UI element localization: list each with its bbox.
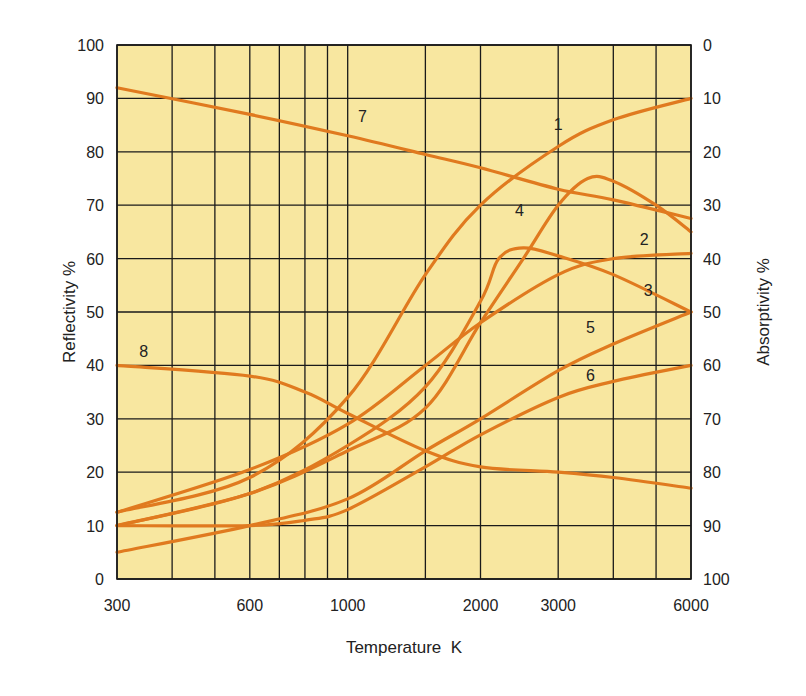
y-axis-left-ticks: 0102030405060708090100 bbox=[77, 37, 104, 588]
x-axis-ticks: 3006001000200030006000 bbox=[104, 597, 709, 614]
x-tick: 300 bbox=[104, 597, 131, 614]
curve-label-8: 8 bbox=[139, 343, 148, 360]
curve-label-2: 2 bbox=[640, 231, 649, 248]
curve-label-6: 6 bbox=[586, 367, 595, 384]
y-tick-left: 80 bbox=[86, 144, 104, 161]
curve-label-4: 4 bbox=[515, 202, 524, 219]
y-tick-left: 60 bbox=[86, 251, 104, 268]
y-tick-left: 30 bbox=[86, 411, 104, 428]
y-tick-right: 100 bbox=[703, 571, 730, 588]
curve-label-3: 3 bbox=[644, 282, 653, 299]
y-tick-right: 60 bbox=[703, 357, 721, 374]
y-tick-left: 70 bbox=[86, 197, 104, 214]
reflectivity-chart: 12345678 0102030405060708090100 10090807… bbox=[0, 0, 806, 696]
curve-label-7: 7 bbox=[358, 108, 367, 125]
x-tick: 6000 bbox=[673, 597, 709, 614]
y-tick-right: 10 bbox=[703, 90, 721, 107]
y-axis-right-ticks: 1009080706050403020100 bbox=[703, 37, 730, 588]
y-tick-right: 70 bbox=[703, 411, 721, 428]
y-tick-right: 0 bbox=[703, 37, 712, 54]
y-axis-right-label: Absorptivity % bbox=[754, 258, 773, 366]
y-tick-left: 40 bbox=[86, 357, 104, 374]
y-tick-left: 10 bbox=[86, 518, 104, 535]
curve-label-5: 5 bbox=[586, 319, 595, 336]
x-tick: 3000 bbox=[540, 597, 576, 614]
y-tick-left: 50 bbox=[86, 304, 104, 321]
y-tick-right: 80 bbox=[703, 464, 721, 481]
y-tick-right: 20 bbox=[703, 144, 721, 161]
x-axis-label: Temperature K bbox=[346, 638, 463, 657]
y-tick-left: 0 bbox=[95, 571, 104, 588]
curve-label-1: 1 bbox=[554, 116, 563, 133]
y-tick-right: 50 bbox=[703, 304, 721, 321]
y-axis-left-label: Reflectivity % bbox=[60, 261, 79, 363]
x-tick: 2000 bbox=[463, 597, 499, 614]
x-tick: 600 bbox=[236, 597, 263, 614]
y-tick-right: 40 bbox=[703, 251, 721, 268]
x-tick: 1000 bbox=[330, 597, 366, 614]
y-tick-right: 30 bbox=[703, 197, 721, 214]
y-tick-left: 100 bbox=[77, 37, 104, 54]
y-tick-right: 90 bbox=[703, 518, 721, 535]
y-tick-left: 20 bbox=[86, 464, 104, 481]
y-tick-left: 90 bbox=[86, 90, 104, 107]
